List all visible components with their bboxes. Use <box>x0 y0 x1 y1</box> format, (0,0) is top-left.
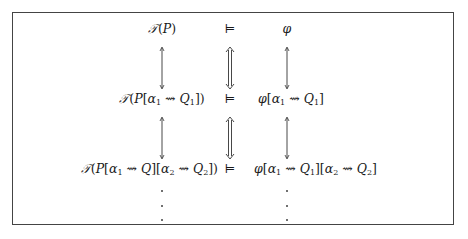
right-bidirectional-arrow-1 <box>282 46 292 90</box>
middle-double-arrow-1 <box>224 46 236 90</box>
right-bidirectional-arrow-2 <box>282 116 292 160</box>
left-ellipsis-dot-3 <box>161 219 163 221</box>
row1-right-formula: φ <box>283 23 292 36</box>
middle-double-arrow-2 <box>224 116 236 160</box>
right-ellipsis-dot-1 <box>286 190 288 192</box>
left-bidirectional-arrow-2 <box>157 116 167 160</box>
row1-left-term: 𝒯(P) <box>148 23 176 36</box>
row2-models-symbol: ⊨ <box>225 93 236 106</box>
row3-left-term: 𝒯(P[α1 ⇝ Q][α2 ⇝ Q2]) <box>81 163 218 177</box>
row3-models-symbol: ⊨ <box>225 163 236 176</box>
left-ellipsis-dot-1 <box>161 190 163 192</box>
left-bidirectional-arrow-1 <box>157 46 167 90</box>
left-ellipsis-dot-2 <box>161 205 163 207</box>
row1-models-symbol: ⊨ <box>225 23 236 36</box>
right-ellipsis-dot-3 <box>286 219 288 221</box>
row2-right-formula: φ[α1 ⇝ Q1] <box>258 93 324 107</box>
right-ellipsis-dot-2 <box>286 205 288 207</box>
row3-right-formula: φ[α1 ⇝ Q1][α2 ⇝ Q2] <box>254 163 377 177</box>
row2-left-term: 𝒯(P[α1 ⇝ Q1]) <box>119 93 204 107</box>
